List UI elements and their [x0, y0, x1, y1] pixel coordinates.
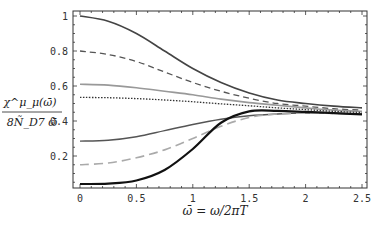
x-tick-label: 2.5 [353, 193, 371, 204]
y-tick-label: 1 [62, 11, 68, 22]
x-tick-label: 2 [303, 193, 309, 204]
chart: 00.511.522.50.20.40.60.81 χ^μ_μ(ω̄) 8Ñ_D… [0, 0, 381, 226]
x-tick-label: 1 [190, 193, 196, 204]
y-tick-label: 0.2 [50, 151, 68, 162]
x-tick-label: 0.5 [127, 193, 145, 204]
curve-2 [80, 51, 362, 110]
y-label-numerator: χ^μ_μ(ω̄) [2, 96, 56, 109]
y-label-denominator: 8Ñ_D7 ω̄ [7, 115, 57, 129]
y-tick-label: 0.8 [50, 46, 68, 57]
curve-7 [80, 110, 362, 184]
x-axis-label: ω̄ = ω/2πT [183, 204, 249, 218]
y-axis-label: χ^μ_μ(ω̄) 8Ñ_D7 ω̄ [2, 96, 62, 129]
curve-1 [80, 16, 362, 108]
x-tick-label: 0 [77, 193, 83, 204]
data-curves [80, 16, 362, 184]
x-tick-label: 1.5 [240, 193, 258, 204]
y-tick-label: 0.6 [50, 81, 68, 92]
